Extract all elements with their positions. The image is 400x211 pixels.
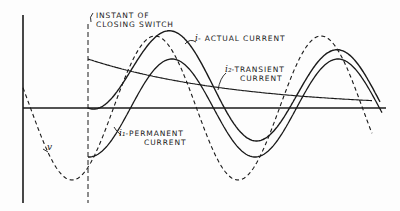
voltage-symbol: v [47,142,52,152]
actual-current-label: i- ACTUAL CURRENT [195,34,285,43]
switch-label-leader [90,13,93,22]
transient-current-text-line2: CURRENT [225,74,285,83]
switch-instant-label-line1: INSTANT OF [96,11,174,20]
switch-instant-label-line2: CLOSING SWITCH [96,20,174,29]
transient-current-label: i₂-TRANSIENT CURRENT [225,65,285,83]
diagram-canvas: INSTANT OF CLOSING SWITCH i- ACTUAL CURR… [0,0,400,211]
switch-instant-label: INSTANT OF CLOSING SWITCH [96,11,174,29]
transient-current-text-line1: -TRANSIENT [232,65,285,74]
permanent-current-text-line2: CURRENT [119,138,186,147]
actual-current-curve [88,31,380,141]
permanent-current-text-line1: -PERMANENT [126,129,184,138]
actual-current-text: - ACTUAL CURRENT [198,34,286,43]
voltage-label: v [47,143,52,152]
permanent-current-label: i₁-PERMANENT CURRENT [119,129,186,147]
waveform-diagram [0,0,400,211]
